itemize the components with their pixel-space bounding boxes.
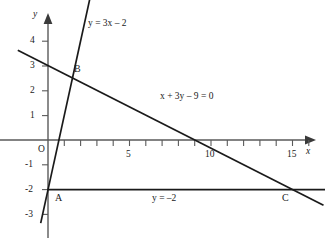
- line1-equation-label: y = 3x – 2: [88, 19, 127, 29]
- y-tick-label-minus-2: -2: [25, 185, 33, 195]
- y-tick-label-1: 1: [30, 111, 35, 121]
- point-label-a: A: [55, 193, 62, 203]
- y-tick-label-3: 3: [30, 61, 35, 71]
- y-axis-ticks: [42, 41, 48, 214]
- y-axis-label: y: [33, 10, 37, 20]
- y-tick-label-4: 4: [30, 36, 35, 46]
- x-tick-label-10: 10: [205, 150, 215, 160]
- x-tick-label-15: 15: [287, 150, 297, 160]
- x-axis-ticks: [64, 140, 308, 146]
- line-x-plus-3y-minus-9: [18, 50, 324, 205]
- diagram-canvas: [0, 0, 325, 246]
- point-label-c: C: [282, 193, 289, 203]
- line2-equation-label: x + 3y – 9 = 0: [160, 92, 213, 102]
- coordinate-diagram: y x O 4 3 2 1 -1 -2 -3 5 10 15 y = 3x – …: [0, 0, 325, 246]
- x-tick-label-5: 5: [126, 150, 131, 160]
- point-label-b: B: [74, 64, 81, 74]
- x-axis-arrowhead: [305, 136, 316, 145]
- x-axis-label: x: [306, 147, 310, 157]
- y-axis-arrowhead: [44, 13, 53, 24]
- line3-equation-label: y = –2: [152, 194, 176, 204]
- y-tick-label-2: 2: [30, 86, 35, 96]
- origin-label: O: [38, 145, 45, 155]
- y-tick-label-minus-1: -1: [25, 160, 33, 170]
- y-tick-label-minus-3: -3: [25, 210, 33, 220]
- y-axis: [42, 13, 52, 238]
